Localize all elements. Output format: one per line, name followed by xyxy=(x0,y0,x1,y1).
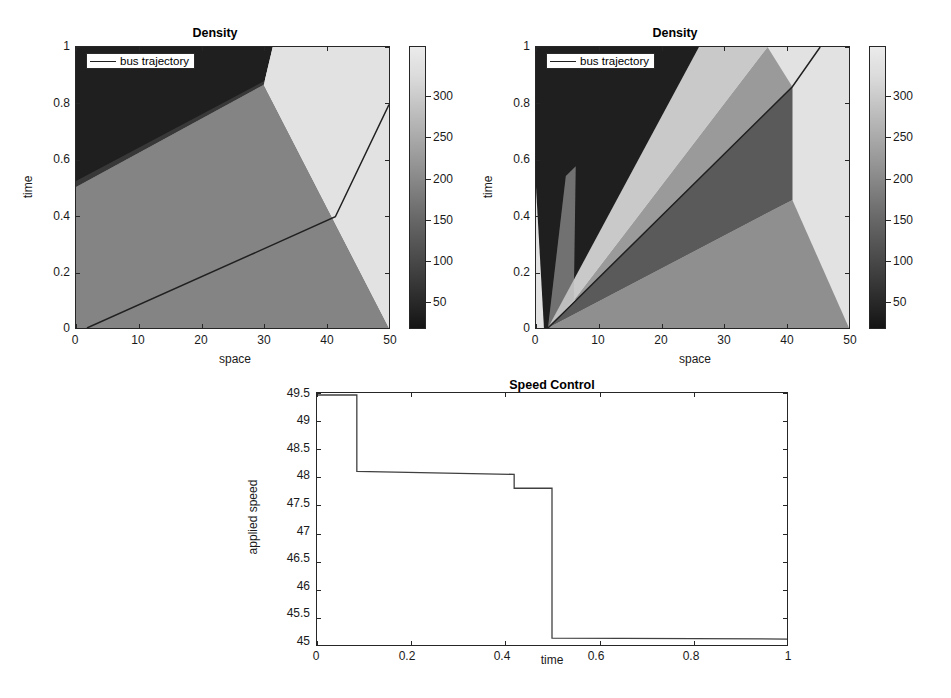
right-cbar-200: 200 xyxy=(893,172,913,186)
right-colorbar xyxy=(869,46,886,329)
left-xtick-0: 0 xyxy=(65,333,85,347)
left-ytick-04: 0.4 xyxy=(36,209,70,223)
y-tickmark-right xyxy=(385,47,389,48)
right-cbar-50: 50 xyxy=(893,295,906,309)
left-cbar-dash-300 xyxy=(426,96,431,97)
right-xtick-50: 50 xyxy=(840,333,860,347)
left-density-legend: bus trajectory xyxy=(86,53,195,69)
right-ytick-1: 1 xyxy=(500,39,530,53)
right-legend-label: bus trajectory xyxy=(580,55,649,67)
right-cbar-dash-200 xyxy=(886,179,891,180)
left-cbar-100: 100 xyxy=(433,254,453,268)
y-tickmark-right xyxy=(845,47,849,48)
left-cbar-150: 150 xyxy=(433,213,453,227)
right-xtick-30: 30 xyxy=(714,333,734,347)
x-tickmark xyxy=(724,324,725,328)
right-density-contour xyxy=(536,47,849,328)
x-tickmark-top xyxy=(662,47,663,51)
y-tickmark xyxy=(76,273,80,274)
left-density-axes xyxy=(75,46,390,329)
right-ylabel: time xyxy=(481,157,495,217)
y-tickmark xyxy=(536,47,540,48)
right-xtick-40: 40 xyxy=(777,333,797,347)
y-tickmark-right xyxy=(783,477,787,478)
left-cbar-dash-200 xyxy=(426,179,431,180)
right-xlabel: space xyxy=(635,352,755,366)
left-ytick-08: 0.8 xyxy=(36,96,70,110)
right-xtick-0: 0 xyxy=(525,333,545,347)
speed-ytick-495: 49.5 xyxy=(262,386,310,400)
legend-line-icon xyxy=(90,61,116,62)
y-tickmark-right xyxy=(783,590,787,591)
left-colorbar xyxy=(409,46,426,329)
y-tickmark xyxy=(317,505,321,506)
speed-ytick-46: 46 xyxy=(262,579,310,593)
y-tickmark xyxy=(76,103,80,104)
speed-ytick-47: 47 xyxy=(262,524,310,538)
right-density-panel: Density bus trajectory 1 0.8 0.6 0.4 xyxy=(460,0,951,370)
x-tickmark xyxy=(264,324,265,328)
y-tickmark xyxy=(536,273,540,274)
x-tickmark-top xyxy=(600,393,601,397)
x-tickmark-top xyxy=(694,393,695,397)
y-tickmark-right xyxy=(845,216,849,217)
x-tickmark xyxy=(505,641,506,645)
x-tickmark xyxy=(536,324,537,328)
y-tickmark xyxy=(76,216,80,217)
speed-control-step-line xyxy=(317,393,787,645)
y-tickmark-right xyxy=(385,160,389,161)
right-cbar-dash-300 xyxy=(886,96,891,97)
left-ytick-1: 1 xyxy=(40,39,70,53)
y-tickmark xyxy=(317,421,321,422)
y-tickmark-right xyxy=(845,103,849,104)
x-tickmark-top xyxy=(327,47,328,51)
speed-xtick-08: 0.8 xyxy=(678,649,704,663)
right-ytick-02: 0.2 xyxy=(496,265,530,279)
x-tickmark xyxy=(327,324,328,328)
left-xtick-20: 20 xyxy=(191,333,211,347)
speed-ytick-455: 45.5 xyxy=(262,606,310,620)
speed-control-panel: Speed Control 49.5 49 48.5 48 47.5 47 46… xyxy=(0,370,951,670)
y-tickmark-right xyxy=(845,160,849,161)
x-tickmark xyxy=(202,324,203,328)
y-tickmark xyxy=(536,103,540,104)
speed-xtick-02: 0.2 xyxy=(394,649,420,663)
speed-ytick-48: 48 xyxy=(262,468,310,482)
left-cbar-dash-100 xyxy=(426,261,431,262)
x-tickmark xyxy=(411,641,412,645)
y-tickmark xyxy=(317,590,321,591)
left-density-panel: Density bus trajectory 1 0.8 0.6 0.4 0.2… xyxy=(0,0,460,370)
right-cbar-300: 300 xyxy=(893,89,913,103)
speed-ytick-485: 48.5 xyxy=(262,441,310,455)
y-tickmark-right xyxy=(783,534,787,535)
left-ytick-02: 0.2 xyxy=(36,265,70,279)
y-tickmark xyxy=(536,216,540,217)
y-tickmark xyxy=(76,47,80,48)
speed-ytick-465: 46.5 xyxy=(262,551,310,565)
right-cbar-dash-150 xyxy=(886,220,891,221)
right-density-legend: bus trajectory xyxy=(546,53,655,69)
x-tickmark-top xyxy=(599,47,600,51)
left-xtick-10: 10 xyxy=(128,333,148,347)
left-density-contour xyxy=(76,47,389,328)
speed-ytick-475: 47.5 xyxy=(262,496,310,510)
left-cbar-250: 250 xyxy=(433,130,453,144)
left-xtick-30: 30 xyxy=(254,333,274,347)
y-tickmark xyxy=(317,534,321,535)
right-cbar-250: 250 xyxy=(893,130,913,144)
x-tickmark-top xyxy=(787,47,788,51)
right-cbar-150: 150 xyxy=(893,213,913,227)
left-cbar-dash-150 xyxy=(426,220,431,221)
left-cbar-200: 200 xyxy=(433,172,453,186)
x-tickmark-top xyxy=(505,393,506,397)
right-cbar-dash-50 xyxy=(886,302,891,303)
x-tickmark xyxy=(139,324,140,328)
y-tickmark-right xyxy=(783,393,787,394)
right-ytick-06: 0.6 xyxy=(496,152,530,166)
right-cbar-100: 100 xyxy=(893,254,913,268)
y-tickmark xyxy=(317,562,321,563)
left-cbar-dash-50 xyxy=(426,302,431,303)
x-tickmark xyxy=(787,324,788,328)
speed-ytick-49: 49 xyxy=(262,413,310,427)
left-ytick-06: 0.6 xyxy=(36,152,70,166)
